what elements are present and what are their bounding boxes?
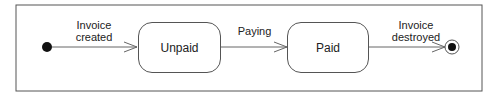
label-line: Invoice <box>384 19 448 31</box>
transition-arrows <box>52 42 445 52</box>
diagram-canvas <box>0 0 500 94</box>
label-line: created <box>64 31 124 43</box>
label-line: Paying <box>227 25 282 37</box>
state-label: Unpaid <box>160 41 198 55</box>
state-paid: Paid <box>287 22 369 73</box>
transition-label-paying: Paying <box>227 25 282 37</box>
initial-state-icon <box>42 42 52 52</box>
state-unpaid: Unpaid <box>138 22 221 73</box>
state-label: Paid <box>316 41 340 55</box>
diagram-frame <box>16 5 482 91</box>
transition-label-invoice-destroyed: Invoice destroyed <box>384 19 448 43</box>
label-line: Invoice <box>64 19 124 31</box>
label-line: destroyed <box>384 31 448 43</box>
final-state-inner-icon <box>448 43 456 51</box>
transition-label-invoice-created: Invoice created <box>64 19 124 43</box>
